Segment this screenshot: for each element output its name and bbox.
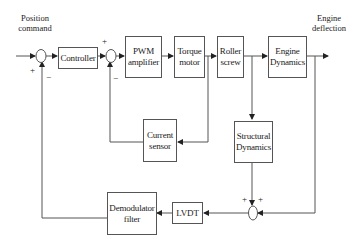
controller-block: Controller [58, 47, 98, 69]
current-label-line1: Current [147, 130, 173, 141]
input-label-line2: command [15, 23, 55, 33]
lvdt-block: LVDT [172, 202, 203, 224]
torque-motor-block: Torquemotor [174, 36, 205, 78]
demod-label-line1: Demodulator [109, 203, 154, 214]
torque-label-line2: motor [177, 57, 201, 68]
current-label-line2: sensor [147, 141, 173, 152]
structural-dynamics-block: StructuralDynamics [234, 121, 273, 163]
sum3-left-plus-sign: + [242, 195, 247, 204]
demod-label-line2: filter [109, 214, 154, 225]
pwm-amplifier-block: PWMamplifier [125, 36, 162, 78]
lvdt-label: LVDT [176, 208, 198, 219]
engine-label-line1: Engine [270, 46, 305, 57]
sum2-plus-sign: + [102, 37, 107, 46]
controller-label: Controller [61, 53, 96, 64]
output-label-line2: deflection [304, 23, 354, 33]
torque-label-line1: Torque [177, 46, 201, 57]
output-label: Engine deflection [304, 13, 354, 33]
sum3-right-plus-sign: + [258, 195, 263, 204]
demodulator-filter-block: Demodulatorfilter [107, 192, 157, 235]
sum2-minus-sign: − [113, 74, 118, 83]
roller-screw-block: Rollerscrew [217, 36, 244, 78]
pwm-label-line2: amplifier [128, 57, 159, 68]
structural-label-line1: Structural [236, 131, 271, 142]
output-label-line1: Engine [304, 13, 354, 23]
summing-junction-2 [106, 50, 116, 63]
current-sensor-block: Currentsensor [143, 119, 177, 162]
structural-label-line2: Dynamics [236, 142, 271, 153]
block-diagram: Position command Engine deflection + − +… [0, 0, 355, 246]
roller-label-line2: screw [220, 57, 241, 68]
summing-junction-3 [249, 206, 258, 220]
input-label-line1: Position [15, 13, 55, 23]
sum1-plus-sign: + [30, 66, 35, 75]
roller-label-line1: Roller [220, 46, 241, 57]
summing-junction-1 [36, 50, 46, 63]
input-label: Position command [15, 13, 55, 33]
engine-label-line2: Dynamics [270, 57, 305, 68]
pwm-label-line1: PWM [128, 46, 159, 57]
sum1-minus-sign: − [46, 73, 51, 82]
engine-dynamics-block: EngineDynamics [268, 36, 307, 78]
